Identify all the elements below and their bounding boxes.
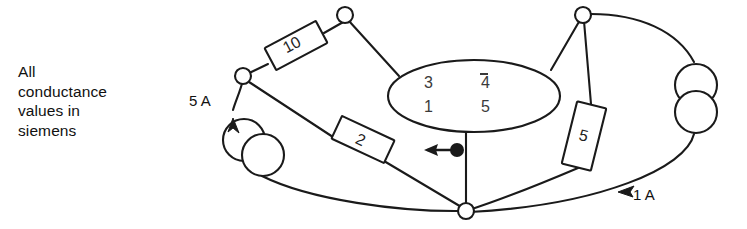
- wire-topright-to-box5: [584, 21, 591, 104]
- node-top: [337, 7, 353, 23]
- matrix-cell-r2c1: 1: [424, 98, 471, 116]
- matrix-cell-r1c2: 4: [471, 74, 528, 92]
- source-1a-label: 1 A: [633, 186, 655, 203]
- node-bottom: [458, 203, 474, 219]
- source-1a-arrow: [618, 186, 634, 197]
- circuit-diagram-page: All conductance values in siemens: [0, 0, 747, 229]
- source-5a-label: 5 A: [189, 92, 211, 109]
- negative-sign-overbar: 4: [481, 74, 490, 92]
- wire-box2-to-bottom-node: [384, 161, 463, 208]
- wire-box5-to-bottom-node: [469, 168, 578, 210]
- filled-dot-marker: [450, 143, 464, 157]
- node-top-right: [575, 7, 591, 23]
- matrix-cell-r1c1: 3: [424, 74, 471, 92]
- matrix-row: 3 4: [424, 74, 528, 98]
- matrix-cell-r2c2: 5: [471, 98, 528, 116]
- matrix-row: 1 5: [424, 98, 528, 122]
- wire-top-node-to-ellipse: [349, 21, 399, 76]
- source-1a-symbol: [675, 64, 717, 133]
- arrow-pointer: [424, 143, 464, 157]
- wire-ellipse-to-topright-node: [551, 20, 580, 70]
- node-left: [235, 68, 251, 84]
- conductance-matrix-values: 3 4 1 5: [424, 74, 528, 122]
- wire-topright-to-source1a: [587, 14, 694, 62]
- wire-source5a-to-bottom-node: [262, 176, 463, 211]
